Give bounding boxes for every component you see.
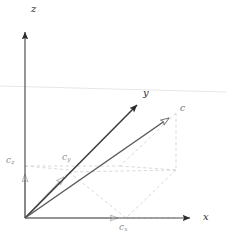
guide-upper-right-edge [120,166,176,170]
axis-label-x: x [203,212,209,222]
diagram-canvas [0,0,226,240]
axis-line-y [25,105,137,218]
component-label-cx: cx [119,223,128,232]
guide-cy-to-proj-base [69,172,126,218]
reference-plane-line [0,86,226,92]
guide-cz-to-cycz [25,166,70,170]
component-label-cz: cz [6,156,14,165]
vector-decomposition-figure: z y x c cz cy cx [0,0,226,240]
vector-label-c: c [180,104,185,113]
component-label-cy: cy [62,153,71,162]
guide-proj-to-cx [126,170,176,218]
guide-proj-lower [69,170,176,172]
vector-c [25,118,169,218]
guide-c-to-cz-plane [120,113,176,166]
axis-label-y: y [143,88,149,98]
axis-label-z: z [31,4,36,14]
